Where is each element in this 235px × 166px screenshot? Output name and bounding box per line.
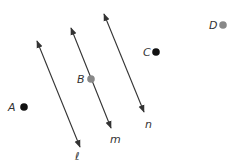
line-l (37, 41, 80, 147)
point-b (87, 75, 95, 83)
point-d (219, 21, 227, 29)
line-label: m (110, 133, 121, 146)
line-label: n (145, 118, 152, 131)
line-label: ℓ (74, 150, 80, 163)
points-group: ABCD (7, 19, 227, 114)
point-a (20, 103, 28, 111)
point-label: C (143, 46, 151, 59)
point-label: D (209, 19, 217, 32)
lines-group: ℓmn (37, 14, 152, 163)
point-c (152, 48, 160, 56)
parallel-lines-diagram: ℓmn ABCD (0, 0, 235, 166)
point-label: B (77, 73, 85, 86)
point-label: A (7, 101, 16, 114)
line-n (104, 14, 144, 112)
